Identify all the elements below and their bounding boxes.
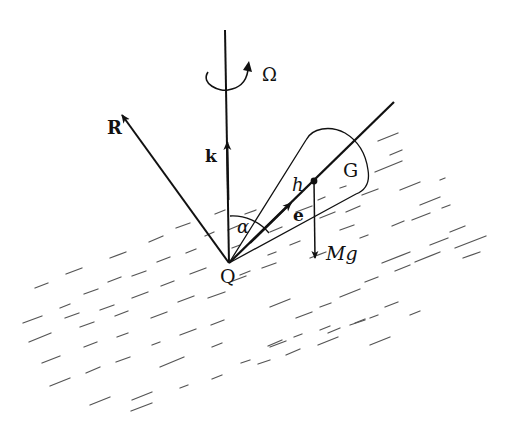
- e-vector-arrow: [250, 203, 291, 243]
- rotation-arrow-icon: [206, 61, 252, 90]
- reaction-force-R-arrow: [122, 115, 229, 263]
- spinning-top-diagram: Ω R k α h G e Mg Q: [0, 0, 513, 429]
- G-label: G: [343, 159, 358, 181]
- e-label: e: [293, 205, 304, 225]
- gravity-force-Mg-arrow: [314, 181, 315, 258]
- alpha-label: α: [237, 216, 249, 237]
- Q-label: Q: [220, 265, 236, 287]
- Mg-label: Mg: [325, 242, 358, 264]
- h-label: h: [292, 174, 304, 195]
- R-label: R: [107, 117, 123, 138]
- k-label: k: [205, 146, 218, 166]
- omega-label: Ω: [262, 64, 277, 85]
- k-vector-arrow: [227, 142, 228, 200]
- diagram-canvas: Ω R k α h G e Mg Q: [0, 0, 513, 429]
- inclined-plane-hatching: [23, 133, 486, 411]
